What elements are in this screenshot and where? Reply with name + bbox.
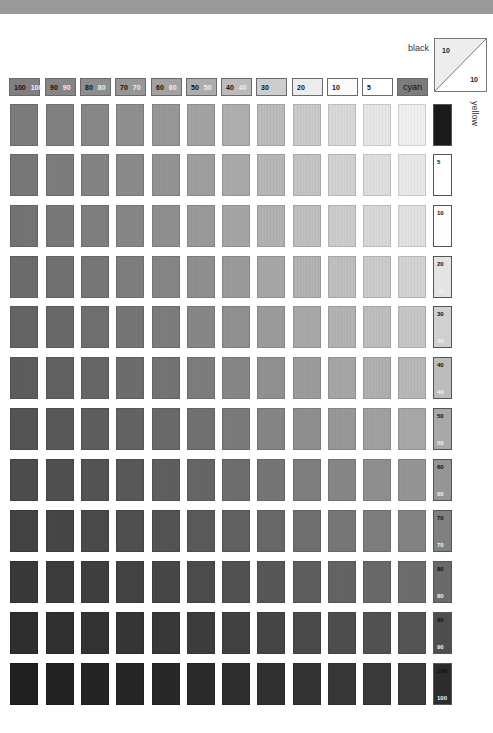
header-swatch-10: 10 bbox=[327, 78, 358, 96]
color-swatch bbox=[46, 612, 74, 654]
header-value: cyan bbox=[403, 82, 422, 92]
color-swatch bbox=[116, 104, 144, 146]
row-key-value-light: 60 bbox=[437, 491, 444, 497]
row-key-value: 20 bbox=[437, 261, 444, 267]
color-swatch bbox=[293, 510, 321, 552]
color-swatch bbox=[81, 104, 109, 146]
color-swatch bbox=[152, 357, 180, 399]
color-swatch bbox=[363, 408, 391, 450]
color-swatch bbox=[222, 510, 250, 552]
row-key-value: 60 bbox=[437, 464, 444, 470]
color-swatch bbox=[152, 205, 180, 247]
color-swatch bbox=[257, 357, 285, 399]
color-swatch bbox=[81, 205, 109, 247]
row-key-value: 50 bbox=[437, 413, 444, 419]
row-key-swatch: 100100 bbox=[433, 663, 452, 705]
color-swatch bbox=[293, 561, 321, 603]
row-key-value-light: 50 bbox=[437, 440, 444, 446]
color-swatch bbox=[10, 612, 38, 654]
color-swatch bbox=[363, 306, 391, 348]
color-swatch bbox=[328, 561, 356, 603]
color-swatch bbox=[363, 510, 391, 552]
color-swatch bbox=[363, 357, 391, 399]
color-swatch bbox=[152, 663, 180, 705]
header-swatch-30: 30 bbox=[256, 78, 287, 96]
color-swatch bbox=[187, 408, 215, 450]
row-key-value: 5 bbox=[437, 159, 440, 165]
color-swatch bbox=[10, 357, 38, 399]
row-key-swatch: 4040 bbox=[433, 357, 452, 399]
color-swatch bbox=[328, 408, 356, 450]
color-swatch bbox=[81, 357, 109, 399]
color-swatch bbox=[363, 663, 391, 705]
color-swatch bbox=[81, 663, 109, 705]
color-swatch bbox=[46, 104, 74, 146]
color-swatch bbox=[398, 357, 426, 399]
color-swatch bbox=[257, 663, 285, 705]
color-swatch bbox=[328, 306, 356, 348]
header-value-light: 100 bbox=[31, 84, 43, 91]
black-axis-label: black bbox=[408, 43, 429, 53]
row-key-value: 80 bbox=[437, 566, 444, 572]
color-swatch bbox=[398, 663, 426, 705]
color-swatch bbox=[222, 561, 250, 603]
header-value-light: 50 bbox=[204, 84, 212, 91]
yellow-axis-label: yellow bbox=[470, 101, 480, 126]
color-swatch bbox=[293, 205, 321, 247]
row-key-value: 90 bbox=[437, 617, 444, 623]
row-key-swatch bbox=[433, 104, 452, 146]
color-swatch bbox=[328, 154, 356, 196]
color-swatch bbox=[116, 561, 144, 603]
color-swatch bbox=[222, 663, 250, 705]
color-swatch bbox=[46, 205, 74, 247]
color-swatch bbox=[81, 256, 109, 298]
color-swatch bbox=[293, 154, 321, 196]
header-value: 5 bbox=[367, 84, 371, 91]
row-key-swatch: 7070 bbox=[433, 510, 452, 552]
color-swatch bbox=[398, 306, 426, 348]
header-swatch-50: 5050 bbox=[186, 78, 217, 96]
color-swatch bbox=[81, 408, 109, 450]
row-key-value-light: 80 bbox=[437, 593, 444, 599]
color-swatch bbox=[328, 612, 356, 654]
color-swatch bbox=[152, 408, 180, 450]
color-swatch bbox=[152, 306, 180, 348]
color-swatch bbox=[257, 154, 285, 196]
color-swatch bbox=[187, 357, 215, 399]
row-key-value: 40 bbox=[437, 362, 444, 368]
row-key-value-light: 20 bbox=[437, 288, 444, 294]
row-key-value-light: 100 bbox=[437, 695, 447, 701]
color-swatch bbox=[328, 510, 356, 552]
header-value: 50 bbox=[191, 84, 199, 91]
color-swatch bbox=[187, 104, 215, 146]
color-swatch bbox=[152, 561, 180, 603]
color-swatch bbox=[328, 459, 356, 501]
row-key-swatch: 3030 bbox=[433, 306, 452, 348]
header-value: 20 bbox=[297, 84, 305, 91]
color-swatch bbox=[152, 104, 180, 146]
corner-legend-key: 10 10 bbox=[434, 38, 487, 92]
header-value: 40 bbox=[226, 84, 234, 91]
row-key-swatch: 9090 bbox=[433, 612, 452, 654]
color-swatch bbox=[116, 510, 144, 552]
row-key-value-light: 90 bbox=[437, 644, 444, 650]
color-swatch bbox=[187, 612, 215, 654]
color-swatch bbox=[46, 459, 74, 501]
header-value-light: 70 bbox=[133, 84, 141, 91]
color-swatch bbox=[363, 561, 391, 603]
color-swatch bbox=[328, 357, 356, 399]
color-swatch bbox=[257, 306, 285, 348]
color-swatch bbox=[293, 663, 321, 705]
color-swatch bbox=[398, 408, 426, 450]
header-value-light: 80 bbox=[98, 84, 106, 91]
color-swatch bbox=[398, 561, 426, 603]
color-swatch bbox=[81, 510, 109, 552]
color-swatch bbox=[46, 561, 74, 603]
color-swatch bbox=[10, 104, 38, 146]
color-swatch bbox=[257, 104, 285, 146]
color-swatch bbox=[328, 663, 356, 705]
row-key-value-light: 30 bbox=[437, 338, 444, 344]
color-swatch bbox=[152, 510, 180, 552]
color-swatch bbox=[81, 306, 109, 348]
color-swatch bbox=[46, 510, 74, 552]
